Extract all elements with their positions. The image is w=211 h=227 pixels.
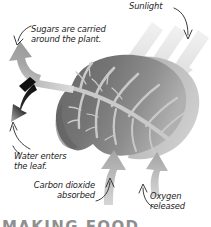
section-heading-text: MAKING FOOD [2,219,139,227]
arrow-down-left-black-icon [11,77,37,122]
photosynthesis-diagram: Sugars are carried around the plant. Sun… [0,0,211,227]
arrow-up-thin-icon [10,122,30,149]
arrow-up-thick-icon-oxygen [146,152,168,197]
arrow-up-thick-icon-co2 [101,150,126,205]
section-heading-clipped: MAKING FOOD [0,219,211,227]
diagram-canvas [0,0,211,227]
water-pointer-icon [13,146,20,154]
arrow-up-curved-icon [9,41,41,84]
leaf-icon [56,55,200,159]
sugars-pointer-icon [14,26,31,45]
